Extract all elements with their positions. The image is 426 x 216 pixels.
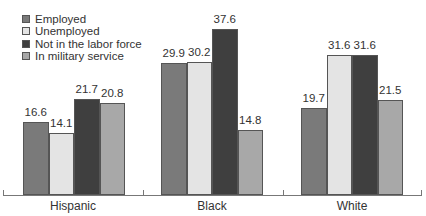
legend-swatch-employed xyxy=(22,15,30,23)
legend-swatch-military xyxy=(22,52,30,60)
x-axis-tick xyxy=(3,190,4,196)
bar-hispanic-employed xyxy=(23,122,49,195)
category-label-black: Black xyxy=(162,199,262,213)
value-label: 14.8 xyxy=(230,114,270,126)
bar-black-not-in-the-labor-force xyxy=(212,29,238,195)
x-axis xyxy=(3,195,421,196)
value-label: 31.6 xyxy=(345,39,385,51)
value-label: 21.5 xyxy=(370,84,410,96)
bar-white-in-military-service xyxy=(378,100,404,195)
x-axis-tick xyxy=(143,190,144,196)
bar-white-unemployed xyxy=(327,55,353,195)
legend-label: In military service xyxy=(35,50,124,62)
legend-item-unemployed: Unemployed xyxy=(22,25,142,37)
bar-black-in-military-service xyxy=(238,130,264,195)
value-label: 20.8 xyxy=(92,87,132,99)
bar-hispanic-in-military-service xyxy=(100,103,126,195)
category-label-hispanic: Hispanic xyxy=(23,199,123,213)
x-axis-tick xyxy=(283,190,284,196)
bar-white-not-in-the-labor-force xyxy=(352,55,378,195)
x-axis-tick xyxy=(421,190,422,196)
bar-hispanic-unemployed xyxy=(49,133,75,195)
bar-white-employed xyxy=(301,108,327,195)
legend-label: Employed xyxy=(35,13,86,25)
legend-item-employed: Employed xyxy=(22,13,142,25)
bar-hispanic-not-in-the-labor-force xyxy=(74,99,100,195)
legend-swatch-unemployed xyxy=(22,27,30,35)
bar-black-employed xyxy=(161,63,187,195)
legend-label: Not in the labor force xyxy=(35,38,142,50)
legend-item-not-in-labor-force: Not in the labor force xyxy=(22,38,142,50)
bar-black-unemployed xyxy=(187,62,213,195)
legend-label: Unemployed xyxy=(35,25,100,37)
category-label-white: White xyxy=(302,199,402,213)
value-label: 37.6 xyxy=(205,13,245,25)
grouped-bar-chart: Employed Unemployed Not in the labor for… xyxy=(0,0,426,216)
legend-swatch-not-in-labor-force xyxy=(22,40,30,48)
legend: Employed Unemployed Not in the labor for… xyxy=(22,13,142,62)
legend-item-military: In military service xyxy=(22,50,142,62)
